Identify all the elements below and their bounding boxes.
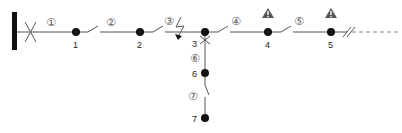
- node-2: [136, 28, 144, 36]
- node-label-5: 5: [328, 40, 333, 50]
- node-label-4: 4: [265, 40, 270, 50]
- node-7: [201, 114, 209, 122]
- node-4: [264, 28, 272, 36]
- segment-label-6: ⑥: [190, 52, 200, 65]
- segment-label-5: ⑤: [294, 15, 304, 28]
- node-3: [201, 28, 209, 36]
- switch-5-icon: [281, 26, 291, 32]
- switch-4-icon: [218, 26, 228, 32]
- segment-label-7: ⑦: [188, 90, 198, 103]
- feeder-diagram: 1 2 3 4 5 6 7 ① ② ③ ④ ⑤ ⑥ ⑦: [0, 0, 402, 133]
- segment-label-1: ①: [46, 16, 56, 29]
- node-label-7: 7: [192, 114, 197, 124]
- node-1: [72, 28, 80, 36]
- busbar: [12, 12, 17, 50]
- switch-2-icon: [88, 26, 98, 32]
- node-label-6: 6: [192, 69, 197, 79]
- fault-lightning-icon: [175, 17, 184, 40]
- node-label-3: 3: [192, 39, 197, 49]
- segment-label-2: ②: [106, 16, 116, 29]
- node-label-2: 2: [137, 40, 142, 50]
- segment-label-4: ④: [231, 15, 241, 28]
- warning-icon-node-5: [325, 8, 337, 18]
- node-label-1: 1: [73, 40, 78, 50]
- switch-3-icon: [153, 26, 163, 32]
- segment-label-3: ③: [164, 15, 174, 28]
- warning-icon-node-4: [262, 8, 274, 18]
- switch-7-icon: [205, 85, 209, 95]
- node-6: [201, 69, 209, 77]
- node-5: [327, 28, 335, 36]
